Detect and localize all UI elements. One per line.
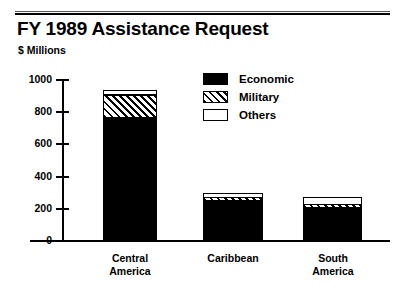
y-tick-label-800: 800 <box>12 106 52 116</box>
legend-label-economic: Economic <box>239 72 294 87</box>
y-tick-mark-1000 <box>56 79 69 81</box>
y-tick-mark-600 <box>56 143 69 145</box>
bar-segment-economic-central-america <box>103 118 157 241</box>
legend-label-military: Military <box>239 90 279 105</box>
legend-label-others: Others <box>239 108 276 123</box>
x-label-central-america-line2: America <box>75 265 185 278</box>
legend-swatch-others-icon <box>203 109 228 121</box>
legend-swatch-military-icon <box>203 91 228 103</box>
y-tick-label-400: 400 <box>12 171 52 181</box>
x-label-south-america-line1: South <box>278 252 388 265</box>
bar-south-america[interactable] <box>303 197 362 241</box>
y-tick-label-600: 600 <box>12 138 52 148</box>
y-tick-label-200: 200 <box>12 203 52 213</box>
x-label-caribbean-line1: Caribbean <box>178 252 288 265</box>
x-label-south-america-line2: America <box>278 265 388 278</box>
bar-central-america[interactable] <box>103 90 157 241</box>
x-label-caribbean: Caribbean <box>178 252 288 265</box>
bar-segment-military-central-america <box>103 95 157 118</box>
bar-caribbean[interactable] <box>203 193 263 241</box>
y-tick-label-1000: 1000 <box>12 74 52 84</box>
x-label-central-america-line1: Central <box>75 252 185 265</box>
y-tick-mark-800 <box>56 111 69 113</box>
legend-swatch-economic-icon <box>203 73 228 85</box>
bar-segment-economic-south-america <box>303 208 362 241</box>
x-label-central-america: Central America <box>75 252 185 278</box>
y-tick-mark-200 <box>56 208 69 210</box>
plot-area: 1000 800 600 400 200 0 Central America <box>0 0 404 297</box>
bar-segment-economic-caribbean <box>203 201 263 241</box>
y-tick-label-0: 0 <box>12 235 52 245</box>
chart-page: FY 1989 Assistance Request $ Millions 10… <box>0 0 404 297</box>
y-tick-mark-0 <box>56 240 69 242</box>
y-tick-mark-400 <box>56 176 69 178</box>
y-axis-line <box>62 79 64 242</box>
x-label-south-america: South America <box>278 252 388 278</box>
